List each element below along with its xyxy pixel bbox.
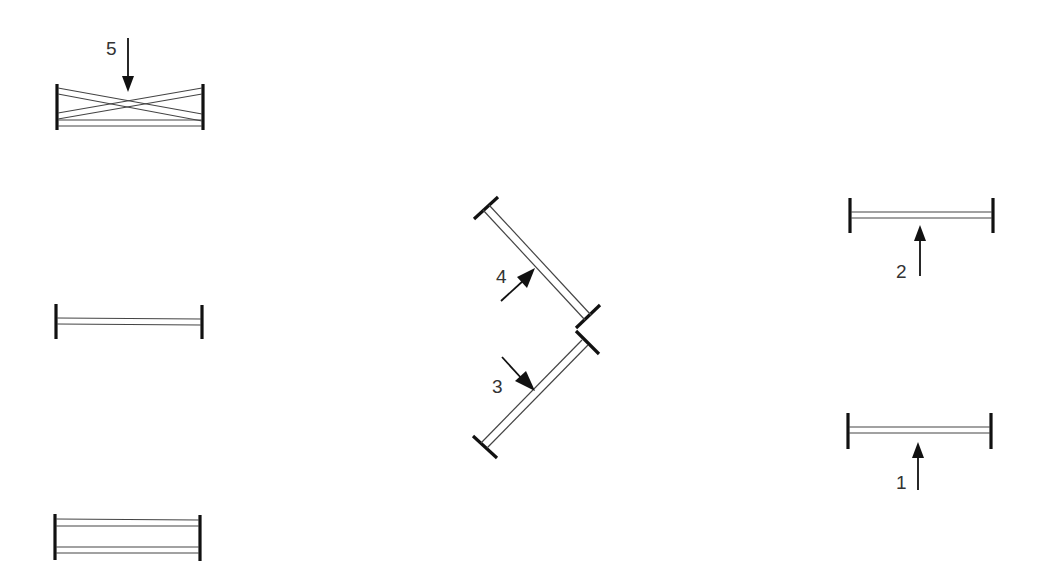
obstacle-oxer-left xyxy=(55,514,200,561)
label-2: 2 xyxy=(896,261,907,282)
post-bottom xyxy=(576,305,600,328)
arrow-up-icon xyxy=(914,225,926,241)
arrow-down-icon xyxy=(122,76,134,92)
arrow-up-icon xyxy=(912,442,924,458)
rail-front-1 xyxy=(56,519,199,520)
obstacle-4-diagonal xyxy=(474,197,600,328)
obstacle-single-left xyxy=(56,304,202,339)
arrow-2: 2 xyxy=(896,225,926,282)
arrow-3: 3 xyxy=(492,357,535,397)
obstacle-5-cross-rail xyxy=(57,84,203,130)
obstacle-2 xyxy=(850,198,993,233)
label-3: 3 xyxy=(492,376,503,397)
course-diagram: 5 4 3 xyxy=(0,0,1037,581)
rail-a xyxy=(483,210,585,320)
label-5: 5 xyxy=(106,38,117,59)
arrow-5: 5 xyxy=(106,38,134,92)
obstacle-1 xyxy=(848,413,991,449)
arrow-4: 4 xyxy=(496,266,535,301)
post-top xyxy=(474,197,498,219)
rail-top xyxy=(57,318,201,319)
label-4: 4 xyxy=(496,266,507,287)
label-1: 1 xyxy=(896,472,907,493)
rail-bottom xyxy=(57,324,201,325)
arrow-1: 1 xyxy=(896,442,924,493)
